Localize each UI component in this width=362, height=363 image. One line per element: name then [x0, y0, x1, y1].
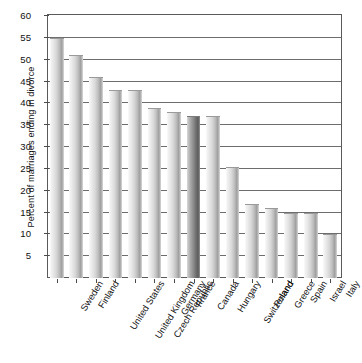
- x-tick-mark: [330, 279, 331, 283]
- gridline: [48, 37, 341, 38]
- y-tick-mark: [44, 255, 49, 256]
- y-tick-mark: [44, 124, 49, 125]
- x-tick-mark: [57, 279, 58, 283]
- y-tick-mark: [44, 81, 49, 82]
- y-tick-label: 20: [1, 184, 31, 195]
- y-tick-label: 15: [1, 206, 31, 217]
- y-tick-label: 10: [1, 228, 31, 239]
- y-tick-mark: [44, 212, 49, 213]
- x-tick-label-italy: Italy: [344, 279, 362, 299]
- x-tick-mark: [154, 279, 155, 283]
- gridline: [48, 124, 341, 125]
- gridline: [48, 168, 341, 169]
- x-tick-mark: [213, 279, 214, 283]
- x-tick-mark: [311, 279, 312, 283]
- y-tick-mark: [44, 102, 49, 103]
- y-tick-label: 50: [1, 53, 31, 64]
- y-tick-mark: [44, 146, 49, 147]
- x-tick-mark: [174, 279, 175, 283]
- x-tick-mark: [233, 279, 234, 283]
- gridline: [48, 190, 341, 191]
- x-tick-mark: [76, 279, 77, 283]
- y-tick-label: 5: [1, 250, 31, 261]
- y-tick-mark: [44, 233, 49, 234]
- x-tick-mark: [194, 279, 195, 283]
- gridline: [48, 212, 341, 213]
- y-tick-label: 25: [1, 162, 31, 173]
- y-tick-label: 55: [1, 31, 31, 42]
- plot-area: 51015202530354045505560: [47, 14, 342, 278]
- x-tick-mark: [252, 279, 253, 283]
- gridline: [48, 146, 341, 147]
- x-tick-mark: [272, 279, 273, 283]
- x-axis-labels: SwedenFinlandUnited StatesUnited Kingdom…: [47, 279, 342, 363]
- x-tick-mark: [135, 279, 136, 283]
- y-tick-mark: [44, 190, 49, 191]
- y-tick-mark: [44, 59, 49, 60]
- gridline: [48, 102, 341, 103]
- y-tick-mark: [44, 37, 49, 38]
- y-tick-label: 60: [1, 10, 31, 21]
- x-tick-mark: [96, 279, 97, 283]
- y-tick-label: 35: [1, 119, 31, 130]
- y-tick-mark: [44, 168, 49, 169]
- y-tick-label: 30: [1, 141, 31, 152]
- gridline: [48, 81, 341, 82]
- gridline: [48, 233, 341, 234]
- y-tick-label: 40: [1, 97, 31, 108]
- gridline: [48, 59, 341, 60]
- x-tick-mark: [115, 279, 116, 283]
- y-tick-mark: [44, 15, 49, 16]
- x-tick-mark: [291, 279, 292, 283]
- y-tick-label: 45: [1, 75, 31, 86]
- gridline: [48, 255, 341, 256]
